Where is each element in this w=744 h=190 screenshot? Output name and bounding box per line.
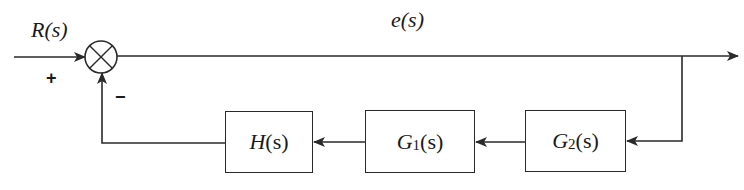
block-diagram: R(s) e(s) + − G2(s) G1(s) H(s): [0, 0, 744, 190]
error-label: e(s): [391, 9, 424, 31]
block-g1: G1(s): [365, 110, 475, 173]
plus-sign: +: [46, 69, 57, 87]
feedback-arrow: [102, 73, 225, 143]
summing-junction-icon: [85, 41, 117, 73]
block-g2: G2(s): [525, 110, 626, 172]
block-h-label: H(s): [249, 129, 288, 155]
minus-sign: −: [115, 88, 126, 106]
input-label: R(s): [31, 19, 68, 41]
block-g1-label: G1(s): [397, 129, 444, 155]
block-g2-label: G2(s): [552, 128, 599, 154]
block-h: H(s): [225, 111, 313, 173]
branch-to-g2: [627, 56, 682, 141]
